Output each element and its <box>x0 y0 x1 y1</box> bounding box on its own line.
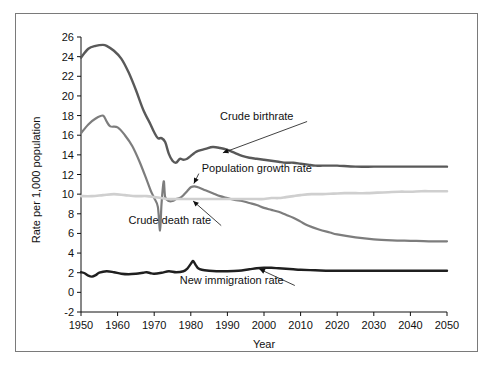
y-tick-label: 12 <box>62 169 74 181</box>
series-line-crude-death-rate <box>81 191 447 199</box>
x-tick-label: 2030 <box>362 319 386 331</box>
x-tick-label: 1990 <box>215 319 239 331</box>
y-axis-title: Rate per 1,000 population <box>30 117 42 244</box>
y-tick-label: 26 <box>62 31 74 43</box>
axes-group: -202468101214161820222426195019601970198… <box>62 31 459 331</box>
y-tick-label: 8 <box>68 208 74 220</box>
x-tick-label: 2010 <box>288 319 312 331</box>
population-rates-line-chart: -202468101214161820222426195019601970198… <box>0 0 495 372</box>
y-tick-label: 24 <box>62 51 74 63</box>
y-tick-label: 14 <box>62 149 74 161</box>
x-tick-label: 1960 <box>105 319 129 331</box>
x-tick-label: 2040 <box>398 319 422 331</box>
annotation-label-population-growth-rate: Population growth rate <box>202 162 312 174</box>
x-tick-label: 1980 <box>179 319 203 331</box>
y-tick-label: 0 <box>68 286 74 298</box>
y-tick-label: 16 <box>62 129 74 141</box>
x-tick-label: 2000 <box>252 319 276 331</box>
annotation-label-crude-birthrate: Crude birthrate <box>220 110 293 122</box>
y-tick-label: 2 <box>68 267 74 279</box>
x-axis-title: Year <box>253 338 276 350</box>
y-tick-label: 6 <box>68 227 74 239</box>
y-tick-label: 10 <box>62 188 74 200</box>
annotation-label-crude-death-rate: Crude death rate <box>129 214 212 226</box>
x-tick-label: 1950 <box>69 319 93 331</box>
chart-canvas: -202468101214161820222426195019601970198… <box>0 0 495 372</box>
y-tick-label: -2 <box>64 306 74 318</box>
series-line-crude-birthrate <box>81 45 447 167</box>
x-tick-label: 1970 <box>142 319 166 331</box>
y-tick-label: 4 <box>68 247 74 259</box>
y-tick-label: 18 <box>62 110 74 122</box>
annotation-leader <box>223 122 307 153</box>
y-tick-label: 22 <box>62 70 74 82</box>
y-tick-label: 20 <box>62 90 74 102</box>
x-tick-label: 2050 <box>435 319 459 331</box>
annotation-label-new-immigration-rate: New immigration rate <box>180 274 284 286</box>
x-tick-label: 2020 <box>325 319 349 331</box>
